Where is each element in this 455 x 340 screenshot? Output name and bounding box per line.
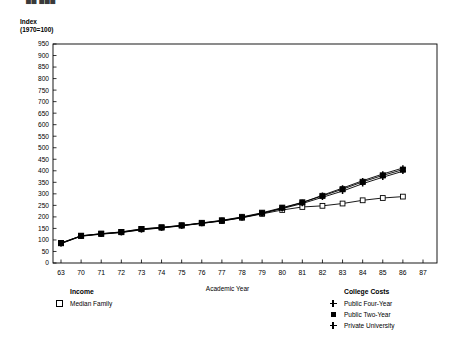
y-tick-label: 800 xyxy=(38,75,49,82)
series-private-university xyxy=(58,165,405,246)
x-tick-label: 83 xyxy=(339,269,347,276)
legend-income-title: Income xyxy=(48,288,208,295)
legend-income-label-0: Median Family xyxy=(70,300,112,307)
y-tick-label: 950 xyxy=(38,40,49,47)
legend-costs-item-0: Public Four-Year xyxy=(322,298,455,309)
y-tick-label: 200 xyxy=(38,213,49,220)
series-line xyxy=(61,170,403,244)
legend-college-costs: College Costs Public Four-YearPublic Two… xyxy=(322,288,455,331)
marker-open-square xyxy=(380,196,385,201)
legend-costs-label-2: Private University xyxy=(344,322,395,329)
legend-costs-item-1: Public Two-Year xyxy=(322,309,455,320)
y-tick-label: 250 xyxy=(38,202,49,209)
plot-frame xyxy=(53,44,437,263)
y-tick-label: 850 xyxy=(38,63,49,70)
y-tick-label: 900 xyxy=(38,52,49,59)
marker-cross-icon xyxy=(330,300,337,307)
y-tick-label: 600 xyxy=(38,121,49,128)
y-tick-label: 150 xyxy=(38,225,49,232)
y-tick-label: 0 xyxy=(45,259,49,266)
legend-income-marker-0 xyxy=(48,300,70,307)
series-line xyxy=(61,197,403,243)
marker-open-square xyxy=(400,194,405,199)
x-tick-label: 87 xyxy=(419,269,427,276)
marker-filled-square-icon xyxy=(331,312,336,317)
x-tick-label: 70 xyxy=(77,269,85,276)
y-tick-label: 650 xyxy=(38,110,49,117)
x-tick-label: 85 xyxy=(379,269,387,276)
y-tick-label: 400 xyxy=(38,167,49,174)
marker-open-square xyxy=(360,198,365,203)
x-tick-label: 78 xyxy=(238,269,246,276)
y-tick-label: 450 xyxy=(38,156,49,163)
marker-open-square xyxy=(340,201,345,206)
legend-costs-item-2: Private University xyxy=(322,320,455,331)
legend-income-item-0: Median Family xyxy=(48,298,208,309)
marker-open-square xyxy=(320,203,325,208)
series-median-family xyxy=(59,194,406,245)
x-tick-label: 63 xyxy=(57,269,65,276)
y-tick-label: 550 xyxy=(38,133,49,140)
y-tick-label: 700 xyxy=(38,98,49,105)
legend-costs-label-0: Public Four-Year xyxy=(344,300,392,307)
series-public-four-year xyxy=(58,168,405,246)
marker-cross-icon xyxy=(330,322,337,329)
x-tick-label: 76 xyxy=(198,269,206,276)
y-tick-label: 750 xyxy=(38,87,49,94)
x-tick-label: 81 xyxy=(299,269,307,276)
y-tick-label: 100 xyxy=(38,236,49,243)
legend-costs-marker-1 xyxy=(322,312,344,317)
legend-costs-label-1: Public Two-Year xyxy=(344,311,391,318)
x-tick-label: 84 xyxy=(359,269,367,276)
x-tick-label: 71 xyxy=(97,269,105,276)
y-tick-label: 350 xyxy=(38,179,49,186)
legend-income: Income Median Family xyxy=(48,288,208,309)
x-tick-label: 77 xyxy=(218,269,226,276)
y-tick-label: 50 xyxy=(42,248,50,255)
y-tick-label: 300 xyxy=(38,190,49,197)
series-public-two-year xyxy=(58,167,405,246)
legend-costs-marker-2 xyxy=(322,322,344,329)
x-tick-label: 79 xyxy=(258,269,266,276)
x-tick-label: 75 xyxy=(178,269,186,276)
x-tick-label: 72 xyxy=(118,269,126,276)
marker-open-square-icon xyxy=(56,300,63,307)
x-tick-label: 86 xyxy=(399,269,407,276)
x-tick-label: 74 xyxy=(158,269,166,276)
chart-page: ██ ███ Index (1970=100) 0501001502002503… xyxy=(0,0,455,340)
legend-college-costs-rows: Public Four-YearPublic Two-YearPrivate U… xyxy=(322,298,455,331)
x-tick-label: 80 xyxy=(278,269,286,276)
x-tick-label: 82 xyxy=(319,269,327,276)
x-tick-label: 73 xyxy=(138,269,146,276)
legend-costs-marker-0 xyxy=(322,300,344,307)
y-tick-label: 500 xyxy=(38,144,49,151)
legend-college-costs-title: College Costs xyxy=(322,288,455,295)
legend-income-rows: Median Family xyxy=(48,298,208,309)
